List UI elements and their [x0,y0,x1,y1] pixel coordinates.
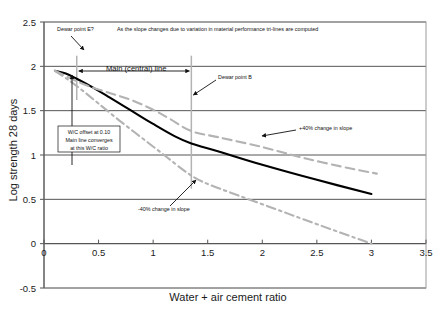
plus-40-label: +40% change in slope [299,125,352,131]
y-tick-label-1.5: 1.5 [23,105,36,116]
y-axis-title: Log strength 28 days [7,98,19,201]
y-tick-label--0.5: -0.5 [20,283,36,294]
chart-canvas: 00.511.522.533.5 2.521.510.50-0.5 Water … [0,0,445,311]
dewar-point-e-label: Dewar point E? [57,26,94,32]
y-tick-label-0.5: 0.5 [23,194,36,205]
x-tick-label-3.5: 3.5 [419,247,432,258]
wc-offset-box-line-1: Main line converges [65,137,112,143]
x-tick-label-0: 0 [41,247,46,258]
x-tick-label-2.5: 2.5 [310,247,323,258]
x-tick-label-1: 1 [150,247,155,258]
minus-40-label: -40% change in slope [138,206,190,212]
main-central-line-label: Main (central) line [106,64,166,73]
x-tick-label-2: 2 [260,247,265,258]
y-tick-label-2: 2 [31,61,36,72]
y-tick-label-2.5: 2.5 [23,17,36,28]
chart-figure: 00.511.522.533.5 2.521.510.50-0.5 Water … [0,0,445,311]
x-tick-label-3: 3 [369,247,374,258]
wc-offset-box-line-0: W/C offset at 0.10 [68,129,110,135]
y-tick-label-0: 0 [31,238,36,249]
x-axis-title: Water + air cement ratio [169,291,286,303]
wc-offset-box-line-2: at this W/C ratio [70,145,108,151]
tri-lines-note: As the slope changes due to variation in… [117,26,318,32]
dewar-point-b-label: Dewar point B [218,74,252,80]
y-tick-label-1: 1 [31,150,36,161]
callout-box-layer: W/C offset at 0.10Main line convergesat … [58,126,120,152]
x-tick-label-1.5: 1.5 [201,247,214,258]
x-tick-label-0.5: 0.5 [92,247,105,258]
